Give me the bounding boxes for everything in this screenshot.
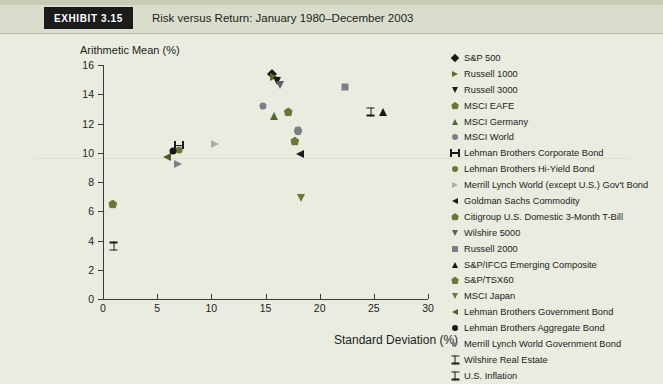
legend-glyph xyxy=(452,262,458,268)
x-tick xyxy=(266,294,267,299)
legend-glyph xyxy=(452,182,458,188)
pentagon-icon xyxy=(290,137,299,146)
triangle-right-icon xyxy=(452,182,458,188)
y-tick xyxy=(98,241,103,242)
legend-symbol xyxy=(448,194,464,208)
legend-symbol xyxy=(448,369,464,383)
legend-symbol xyxy=(448,115,464,129)
legend-item[interactable]: Russell 2000 xyxy=(448,241,663,257)
triangle-right-icon xyxy=(211,140,219,148)
legend-glyph xyxy=(452,55,458,61)
i-beam-icon xyxy=(451,355,460,364)
triangle-down-icon xyxy=(452,230,458,236)
circle-icon xyxy=(452,134,458,140)
legend-item[interactable]: U.S. Inflation xyxy=(448,368,663,384)
legend-symbol xyxy=(448,258,464,272)
legend-symbol xyxy=(448,337,464,351)
pentagon-icon xyxy=(451,102,459,110)
point-glyph xyxy=(276,81,284,89)
legend-item[interactable]: Russell 1000 xyxy=(448,66,663,82)
legend-label: Lehman Brothers Hi-Yield Bond xyxy=(464,164,594,174)
x-tick-label: 25 xyxy=(361,302,387,314)
legend-item[interactable]: MSCI Germany xyxy=(448,114,663,130)
y-tick-label: 12 xyxy=(72,118,94,130)
legend-item[interactable]: Wilshire Real Estate xyxy=(448,352,663,368)
point-glyph xyxy=(170,148,177,155)
legend-label: MSCI World xyxy=(464,132,514,142)
legend-symbol xyxy=(448,321,464,335)
legend-label: Russell 2000 xyxy=(464,244,518,254)
point-glyph xyxy=(294,126,303,135)
legend-label: Merrill Lynch World (except U.S.) Gov't … xyxy=(464,180,648,190)
x-tick-label: 20 xyxy=(307,302,333,314)
triangle-left-icon xyxy=(296,150,304,158)
point-glyph xyxy=(284,107,293,116)
legend-label: Citigroup U.S. Domestic 3-Month T-Bill xyxy=(464,212,623,222)
legend-item[interactable]: Merrill Lynch World Government Bond xyxy=(448,336,663,352)
legend-item[interactable]: Russell 3000 xyxy=(448,82,663,98)
point-glyph xyxy=(108,199,117,208)
legend-label: Lehman Brothers Aggregate Bond xyxy=(464,323,605,333)
square-icon xyxy=(341,83,348,90)
y-tick-label: 14 xyxy=(72,88,94,100)
x-tick xyxy=(157,294,158,299)
legend-item[interactable]: Lehman Brothers Aggregate Bond xyxy=(448,320,663,336)
y-tick-label: 8 xyxy=(72,176,94,188)
legend-symbol xyxy=(448,83,464,97)
legend-item[interactable]: S&P/IFCG Emerging Composite xyxy=(448,257,663,273)
legend-item[interactable]: MSCI World xyxy=(448,129,663,145)
triangle-down-icon xyxy=(452,87,458,93)
i-beam-icon xyxy=(366,107,375,116)
x-tick xyxy=(211,294,212,299)
y-tick xyxy=(98,153,103,154)
legend-glyph xyxy=(452,198,458,204)
legend-symbol xyxy=(448,305,464,319)
legend-symbol xyxy=(448,130,464,144)
point-glyph xyxy=(174,160,182,168)
y-tick xyxy=(98,94,103,95)
legend-item[interactable]: Lehman Brothers Hi-Yield Bond xyxy=(448,161,663,177)
legend-item[interactable]: Wilshire 5000 xyxy=(448,225,663,241)
legend-label: Wilshire 5000 xyxy=(464,228,520,238)
legend-glyph xyxy=(452,119,458,125)
legend-label: S&P/IFCG Emerging Composite xyxy=(464,260,597,270)
legend-glyph xyxy=(452,134,458,140)
legend-item[interactable]: Merrill Lynch World (except U.S.) Gov't … xyxy=(448,177,663,193)
legend-item[interactable]: Lehman Brothers Corporate Bond xyxy=(448,145,663,161)
legend-label: Goldman Sachs Commodity xyxy=(464,196,580,206)
legend-label: MSCI Germany xyxy=(464,117,528,127)
i-beam-icon xyxy=(109,242,118,251)
legend-item[interactable]: MSCI Japan xyxy=(448,288,663,304)
legend-item[interactable]: Lehman Brothers Government Bond xyxy=(448,304,663,320)
legend-label: S&P/TSX60 xyxy=(464,275,514,285)
x-tick xyxy=(103,294,104,299)
pentagon-icon xyxy=(108,199,117,208)
header-top-rule xyxy=(0,0,663,5)
legend-item[interactable]: Citigroup U.S. Domestic 3-Month T-Bill xyxy=(448,209,663,225)
legend-symbol xyxy=(448,99,464,113)
legend-item[interactable]: S&P 500 xyxy=(448,50,663,66)
y-tick-label: 10 xyxy=(72,147,94,159)
triangle-right-icon xyxy=(174,160,182,168)
legend-symbol xyxy=(448,273,464,287)
point-glyph xyxy=(109,242,118,251)
point-glyph xyxy=(270,112,278,120)
i-beam-icon xyxy=(451,371,460,380)
pentagon-icon xyxy=(451,213,459,221)
y-axis-line xyxy=(103,65,104,299)
x-axis-title: Standard Deviation (%) xyxy=(334,333,458,347)
point-glyph xyxy=(297,194,305,202)
legend-symbol xyxy=(448,67,464,81)
triangle-right-icon xyxy=(452,71,458,77)
legend-item[interactable]: MSCI EAFE xyxy=(448,98,663,114)
y-tick xyxy=(98,182,103,183)
hexagon-icon xyxy=(294,126,303,135)
circle-icon xyxy=(452,166,458,172)
legend-label: MSCI EAFE xyxy=(464,101,514,111)
x-tick-label: 15 xyxy=(253,302,279,314)
legend-symbol xyxy=(448,353,464,367)
legend-item[interactable]: S&P/TSX60 xyxy=(448,272,663,288)
legend-item[interactable]: Goldman Sachs Commodity xyxy=(448,193,663,209)
point-glyph xyxy=(290,137,299,146)
x-tick-label: 30 xyxy=(415,302,441,314)
